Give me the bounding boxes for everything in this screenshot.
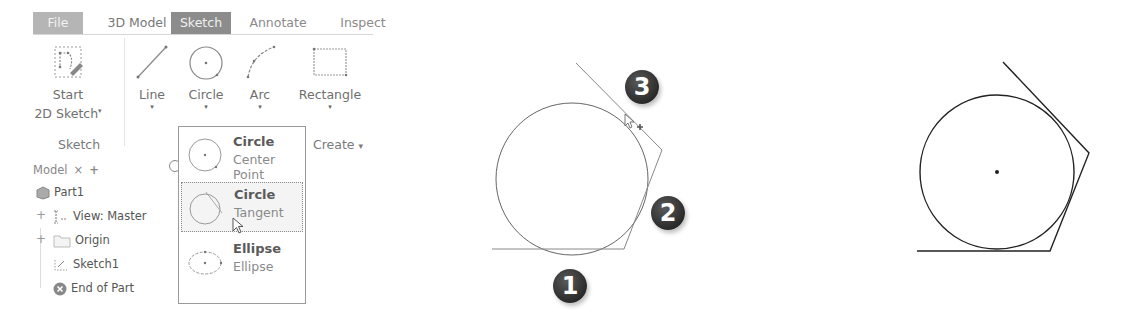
close-icon[interactable]: ×	[74, 163, 84, 177]
chevron-down-icon: ▾	[183, 103, 229, 111]
expand-icon[interactable]: +	[36, 208, 46, 222]
chevron-down-icon: ▾	[359, 141, 364, 151]
rectangle-label: Rectangle	[294, 87, 366, 103]
chevron-down-icon: ▾	[294, 103, 366, 111]
start-label-line1: Start	[28, 87, 108, 103]
tangent-circle-result-drawing	[900, 40, 1123, 280]
model-tab[interactable]: Model	[33, 163, 68, 177]
tree-item-origin[interactable]: Origin	[53, 232, 110, 248]
tree-item-label: View: Master	[73, 209, 146, 223]
model-browser-header: Model×+	[33, 163, 105, 177]
tangent-circle-steps-drawing	[470, 40, 710, 319]
tree-item-label: Origin	[75, 233, 110, 247]
menu-item-title: Circle	[234, 187, 275, 202]
circle-label: Circle	[183, 87, 229, 103]
chevron-down-icon: ▾	[240, 103, 280, 111]
menu-item-subtitle: Ellipse	[233, 259, 273, 274]
arc-button[interactable]: Arc ▾	[240, 43, 280, 111]
tree-item-label: End of Part	[71, 281, 134, 295]
arc-icon	[240, 43, 280, 83]
menu-item-circle-tangent[interactable]: Circle Tangent	[181, 182, 303, 232]
line-icon	[132, 43, 172, 83]
circle-dropdown-menu: Circle Center Point Circle Tangent Ellip…	[178, 126, 306, 304]
sketch-group-label: Sketch	[58, 137, 100, 152]
step-badge-3: 3	[625, 70, 659, 104]
tab-3d-model[interactable]: 3D Model	[91, 12, 183, 34]
view-icon	[53, 210, 69, 224]
tree-item-end-of-part[interactable]: End of Part	[53, 280, 134, 296]
tree-item-part1[interactable]: Part1	[36, 184, 84, 200]
expand-icon[interactable]: +	[36, 232, 46, 246]
start-2d-sketch-button[interactable]: Start 2D Sketch▾	[28, 43, 108, 122]
tab-inspect[interactable]: Inspect	[323, 12, 403, 34]
ribbon-tabs: File 3D Model Sketch Annotate Inspect	[33, 12, 373, 35]
center-point	[995, 170, 999, 174]
tree-item-view-master[interactable]: View: Master	[53, 208, 146, 224]
menu-item-title: Circle	[233, 134, 274, 149]
menu-item-subtitle: Center Point	[233, 152, 301, 182]
rectangle-button[interactable]: Rectangle ▾	[294, 43, 366, 111]
crosshair-icon	[637, 124, 643, 130]
circle-tangent-icon	[186, 189, 226, 227]
step-badge-1: 1	[553, 269, 587, 303]
tab-sketch[interactable]: Sketch	[171, 12, 231, 34]
tree-item-label: Part1	[54, 185, 84, 199]
circle-button[interactable]: Circle ▾	[183, 43, 229, 111]
chevron-down-icon: ▾	[98, 107, 102, 115]
line-label: Line	[130, 87, 174, 103]
ellipse-icon	[185, 243, 225, 281]
circle-center-point-icon	[185, 136, 225, 174]
tab-annotate[interactable]: Annotate	[238, 12, 318, 34]
tree-item-sketch1[interactable]: Sketch1	[53, 256, 119, 272]
start-2d-sketch-icon	[48, 43, 88, 83]
menu-item-title: Ellipse	[233, 241, 281, 256]
chevron-down-icon: ▾	[130, 103, 174, 111]
line-button[interactable]: Line ▾	[130, 43, 174, 111]
sketch-icon	[53, 258, 69, 272]
mouse-cursor-icon	[232, 217, 246, 235]
create-group-label: Create	[313, 137, 355, 152]
menu-item-circle-center-point[interactable]: Circle Center Point	[181, 130, 301, 178]
rectangle-icon	[310, 43, 350, 83]
arc-label: Arc	[240, 87, 280, 103]
ribbon-separator	[124, 38, 125, 146]
end-of-part-icon	[53, 282, 67, 296]
menu-item-ellipse[interactable]: Ellipse Ellipse	[181, 237, 301, 285]
create-group-button[interactable]: Create ▾	[313, 137, 363, 152]
start-label-line2: 2D Sketch▾	[28, 103, 108, 122]
circle-icon	[186, 43, 226, 83]
tree-item-label: Sketch1	[73, 257, 119, 271]
step-badge-2: 2	[651, 196, 685, 230]
add-tab-icon[interactable]: +	[89, 163, 99, 177]
tab-file[interactable]: File	[33, 12, 83, 34]
part-icon	[36, 186, 50, 200]
folder-icon	[53, 234, 71, 248]
